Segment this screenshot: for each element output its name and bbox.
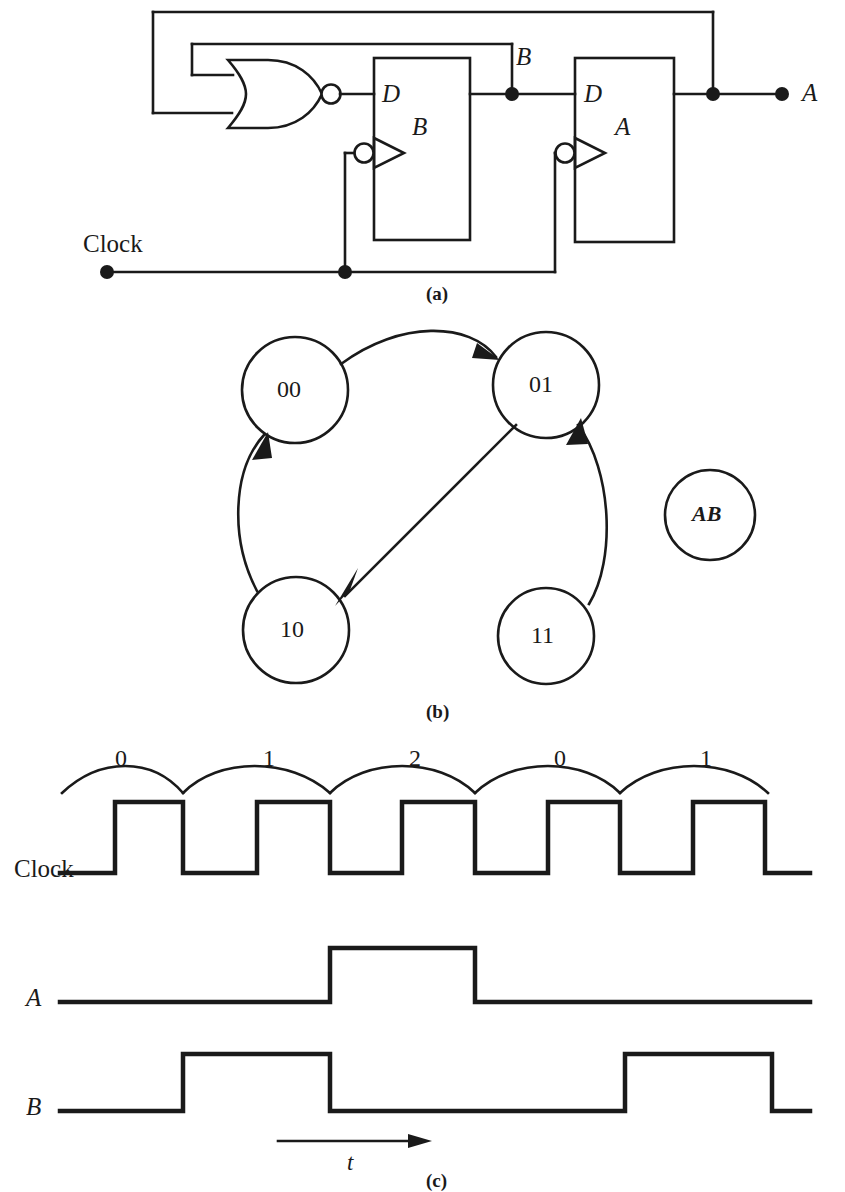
figure-root: D B D A B A Clock (a) 00 01 10 11 AB (b)…	[0, 0, 845, 1192]
cycle-label-4: 1	[700, 745, 712, 772]
flipflop-b-d-label: D	[382, 80, 400, 108]
waveform-b	[60, 1054, 810, 1111]
flipflop-a-clock-input	[556, 138, 606, 168]
figure-svg	[0, 0, 845, 1192]
flipflop-a-name-label: A	[615, 113, 630, 141]
clock-wire	[107, 153, 555, 272]
flipflop-a-d-label: D	[584, 80, 602, 108]
cycle-label-2: 2	[409, 745, 421, 772]
state-label-11: 11	[531, 622, 554, 649]
flipflop-b-name-label: B	[412, 113, 427, 141]
waveform-clock	[60, 802, 810, 873]
waveform-label-clock: Clock	[14, 855, 74, 883]
clock-input-terminal	[100, 265, 114, 279]
transition-00-to-01	[341, 331, 496, 364]
node-b-label: B	[516, 43, 531, 71]
nor-gate	[228, 60, 374, 128]
nor-gate-bubble	[322, 85, 341, 104]
time-axis-arrow	[278, 1134, 432, 1148]
transition-01-to-10	[345, 425, 516, 596]
transition-11-to-01	[578, 425, 607, 604]
node-b-junction	[505, 87, 519, 101]
state-label-01: 01	[529, 371, 553, 398]
node-a-junction	[706, 87, 720, 101]
panel-c-caption: (c)	[426, 1170, 447, 1192]
waveform-label-b: B	[26, 1093, 41, 1121]
waveform-a	[60, 948, 810, 1002]
time-axis-label: t	[347, 1150, 353, 1176]
panel-b-caption: (b)	[426, 701, 449, 723]
panel-a-caption: (a)	[426, 283, 448, 305]
state-label-00: 00	[277, 376, 301, 403]
cycle-label-3: 0	[554, 745, 566, 772]
cycle-label-1: 1	[263, 745, 275, 772]
flipflop-b-clock-bubble	[355, 144, 374, 163]
clock-junction	[338, 265, 352, 279]
flipflop-b-clock-input	[355, 138, 405, 168]
feedback-inner-wire	[192, 44, 512, 94]
flipflop-a-clock-bubble	[556, 144, 575, 163]
a-output-terminal	[775, 87, 789, 101]
waveform-label-a: A	[26, 984, 41, 1012]
feedback-outer-wire	[153, 12, 713, 113]
cycle-label-0: 0	[115, 745, 127, 772]
state-legend-label: AB	[692, 501, 721, 527]
state-label-10: 10	[280, 616, 304, 643]
state-circles	[242, 332, 755, 684]
output-a-label: A	[802, 79, 817, 107]
clock-input-label: Clock	[83, 230, 143, 258]
